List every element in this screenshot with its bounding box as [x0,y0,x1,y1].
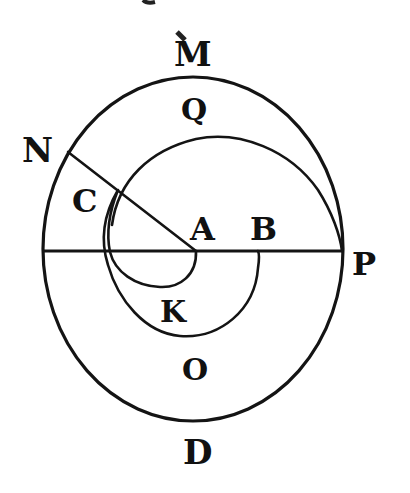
label-O: O [182,352,208,387]
spiral-curve [104,137,342,336]
label-C: C [72,182,97,220]
spiral-circle-diagram: M Q N C A B P K O D [0,0,410,493]
label-N: N [22,130,53,170]
label-A: A [189,210,216,248]
label-Q: Q [181,92,207,127]
label-M: M [174,34,212,74]
label-B: B [250,210,277,248]
label-K: K [160,294,187,329]
label-P: P [352,245,376,283]
label-D: D [183,432,212,472]
